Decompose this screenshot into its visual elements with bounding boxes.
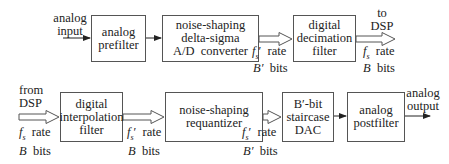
analog-postfilter-block: analog postfilter [347,92,405,142]
from-dsp-label: from DSP [19,84,43,110]
staircase-dac-block: B′-bit staircase DAC [282,92,334,142]
adc-output-rate-label: fs′ rate [252,45,286,63]
hollow-arrow-requantizer-to-dac [263,111,281,124]
analog-input-label: analog input [50,12,90,38]
to-dsp-label: to DSP [362,7,402,33]
interpolation-output-rate-label: fs′ rate [127,126,161,144]
dsp-output-bits-label: B bits [19,145,51,158]
hollow-arrow-dsp-to-interpolation [19,111,59,124]
interpolation-filter-block: digital interpolation filter [60,92,123,142]
decimation-filter-block: digital decimation filter [293,15,356,62]
dsp-output-rate-label: fs rate [19,126,51,144]
requantizer-output-rate-label: fs′ rate [242,126,276,144]
hollow-arrow-interpolation-to-requantizer [123,111,164,124]
analog-prefilter-block: analog prefilter [91,15,146,62]
analog-output-label: analog output [400,87,446,113]
interpolation-output-bits-label: B bits [128,145,160,158]
delta-sigma-adc-block: noise-shaping delta-sigma A/D converter [162,15,259,62]
decimation-output-bits-label: B bits [363,62,395,75]
adc-output-bits-label: B′ bits [253,62,288,75]
requantizer-output-bits-label: B′ bits [243,145,278,158]
decimation-output-rate-label: fs rate [363,45,395,63]
